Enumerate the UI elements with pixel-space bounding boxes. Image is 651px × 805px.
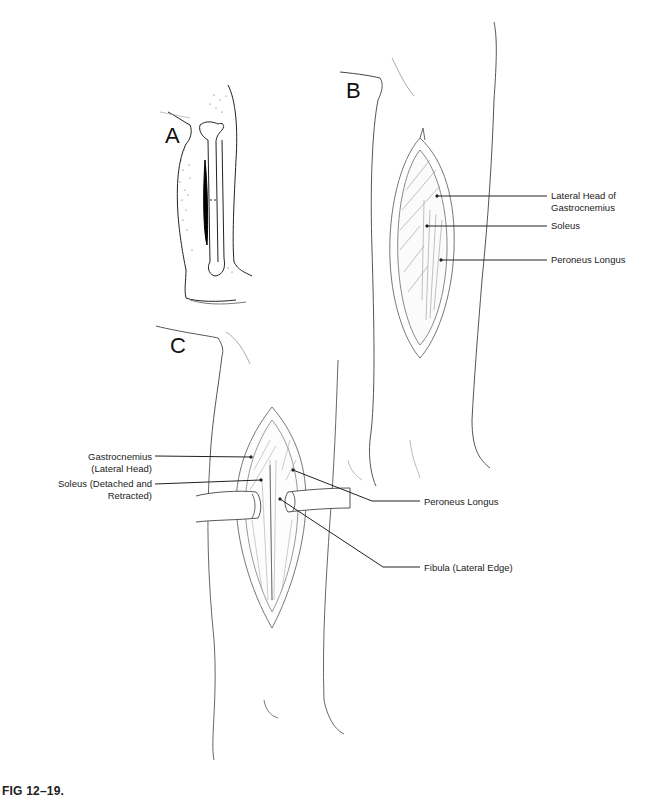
panel-b-drawing	[340, 22, 496, 486]
label-fibula-lateral-edge: Fibula (Lateral Edge)	[424, 562, 513, 574]
figure-caption: FIG 12–19.	[2, 784, 64, 798]
panel-c-letter: C	[170, 335, 186, 357]
label-peroneus-longus-b: Peroneus Longus	[551, 254, 625, 266]
label-peroneus-longus-c: Peroneus Longus	[424, 496, 498, 508]
label-lateral-head-gastrocnemius-line1: Lateral Head of	[551, 190, 616, 202]
label-gastrocnemius-c-line1: Gastrocnemius	[88, 451, 152, 463]
panel-b-letter: B	[346, 80, 361, 102]
label-lateral-head-gastrocnemius-line2: Gastrocnemius	[551, 202, 615, 214]
label-soleus-c-line1: Soleus (Detached and	[58, 478, 152, 490]
label-soleus-b: Soleus	[551, 220, 580, 232]
anatomical-illustration	[0, 0, 651, 805]
panel-a-drawing	[160, 85, 252, 301]
label-soleus-c-line2: Retracted)	[108, 490, 152, 502]
label-gastrocnemius-c-line2: (Lateral Head)	[91, 463, 152, 475]
panel-a-letter: A	[165, 125, 180, 147]
panel-c-drawing	[156, 300, 362, 760]
